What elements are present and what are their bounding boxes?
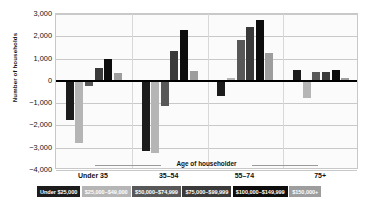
plot-area — [55, 13, 358, 169]
bar[interactable] — [217, 81, 225, 97]
gridline — [56, 36, 357, 37]
gridline — [56, 14, 357, 15]
gridline — [56, 103, 357, 104]
bar[interactable] — [142, 81, 150, 151]
x-group-label: 55–74 — [207, 172, 283, 179]
y-tick-label: −3,000 — [4, 142, 52, 151]
legend: Under $25,000$25,000–$49,000$50,000–$74,… — [37, 186, 321, 197]
bar[interactable] — [170, 51, 178, 81]
y-tick-label: −4,000 — [4, 165, 52, 174]
legend-item[interactable]: $50,000–$74,999 — [132, 186, 181, 197]
bar[interactable] — [161, 81, 169, 107]
gridline — [56, 59, 357, 60]
bar[interactable] — [256, 20, 264, 81]
legend-item[interactable]: $25,000–$49,000 — [82, 186, 131, 197]
legend-item[interactable]: $100,000–$149,999 — [233, 186, 288, 197]
bar[interactable] — [180, 30, 188, 81]
group-separator — [283, 14, 284, 168]
y-tick-label: 1,000 — [4, 53, 52, 62]
x-axis-title: Age of householder — [55, 160, 358, 167]
x-group-label: 75+ — [282, 172, 358, 179]
gridline — [56, 125, 357, 126]
group-separator — [132, 14, 133, 168]
x-axis-title-group: Age of householder — [55, 160, 358, 171]
x-group-label: 35–54 — [131, 172, 207, 179]
y-tick-label: 0 — [4, 75, 52, 84]
bar[interactable] — [66, 81, 74, 120]
bar[interactable] — [151, 81, 159, 153]
y-tick-label: −2,000 — [4, 120, 52, 129]
y-tick-label: 3,000 — [4, 9, 52, 18]
bar[interactable] — [237, 40, 245, 81]
y-axis-tick-labels: 3,0002,0001,0000−1,000−2,000−3,000−4,000 — [0, 13, 52, 169]
y-tick-label: −1,000 — [4, 98, 52, 107]
bar[interactable] — [104, 59, 112, 81]
bar[interactable] — [303, 81, 311, 98]
x-axis-group-labels: Under 3535–5455–7475+ — [55, 172, 358, 183]
legend-item[interactable]: $75,000–$99,999 — [182, 186, 231, 197]
chart-root: Number of households 3,0002,0001,0000−1,… — [0, 0, 368, 203]
zero-axis-line — [56, 80, 357, 82]
bar[interactable] — [265, 53, 273, 81]
bar[interactable] — [246, 27, 254, 80]
group-separator — [208, 14, 209, 168]
legend-item[interactable]: Under $25,000 — [37, 186, 80, 197]
bar[interactable] — [75, 81, 83, 143]
y-tick-label: 2,000 — [4, 31, 52, 40]
legend-item[interactable]: $150,000+ — [289, 186, 321, 197]
gridline — [56, 148, 357, 149]
x-group-label: Under 35 — [55, 172, 131, 179]
